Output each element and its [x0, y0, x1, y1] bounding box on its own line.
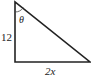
- vertical-side-label: 12: [1, 31, 12, 43]
- right-triangle-diagram: θ 12 2x: [0, 0, 91, 77]
- horizontal-side-label: 2x: [45, 65, 56, 77]
- angle-label: θ: [19, 14, 24, 25]
- triangle: [15, 2, 90, 62]
